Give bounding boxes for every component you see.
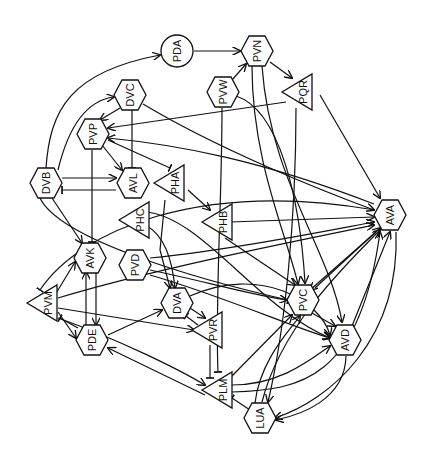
edge-dva-to-pvr (190, 308, 205, 318)
node-dvb: DVB (30, 168, 62, 198)
edge-dvb-to-avk (52, 198, 82, 243)
edge-pqr-to-lua (268, 108, 296, 402)
node-label: PLM (217, 379, 229, 402)
node-avk: AVK (74, 243, 106, 273)
node-pqr: PQR (282, 74, 312, 110)
edge-plm-to-pde (108, 348, 205, 395)
node-label: PQR (297, 80, 309, 104)
node-pha: PHA (154, 165, 184, 201)
node-plm: PLM (202, 372, 232, 408)
edge-ava-to-pvc (310, 232, 376, 290)
edge-pde-to-dva (108, 310, 162, 335)
edge-dvc-to-pvp (100, 108, 120, 120)
node-label: PVM (42, 291, 54, 315)
edge-phb-to-pvc (225, 238, 295, 285)
node-phb: PHB (202, 204, 232, 240)
neural-network-diagram: PDAPVNPVWPQRDVCPVPDVBAVLPHAPHCPHBAVAPVDA… (0, 0, 444, 461)
node-pvr: PVR (192, 312, 222, 348)
edge-plm-to-pvc (230, 315, 292, 378)
node-label: PDA (171, 39, 183, 62)
node-pvm: PVM (27, 285, 57, 321)
edge-avd-to-lua (276, 356, 346, 420)
edge-lua-to-plm (232, 398, 250, 410)
node-label: DVB (40, 172, 52, 195)
node-ava: AVA (374, 200, 406, 230)
node-pvp: PVP (77, 119, 109, 149)
node-label: AVD (339, 329, 351, 351)
node-dvc: DVC (114, 80, 146, 110)
node-pvd: PVD (119, 250, 151, 280)
node-avl: AVL (117, 168, 149, 198)
edge-pvc-to-avd (312, 313, 335, 326)
node-label: PHC (134, 208, 146, 231)
node-pvw: PVW (207, 77, 239, 107)
node-label: PVP (87, 123, 99, 145)
edge-pvp-to-avl (102, 145, 122, 170)
node-avd: AVD (329, 325, 361, 355)
node-pvn: PVN (241, 36, 273, 66)
node-label: PVC (297, 289, 309, 312)
node-dva: DVA (161, 288, 193, 318)
edge-pvm-to-avk (55, 262, 75, 295)
node-label: LUA (254, 407, 266, 429)
node-label: PVR (207, 319, 219, 342)
edge-pqr-to-ava (320, 95, 380, 198)
node-phc: PHC (119, 202, 149, 238)
edge-phb-to-ava (230, 217, 374, 222)
edge-pvd-to-ava (150, 222, 374, 258)
edge-pvn-to-pqr (270, 62, 292, 78)
node-label: AVL (127, 173, 139, 193)
edge-pvr-to-dva (186, 316, 198, 325)
node-label: AVK (84, 247, 96, 269)
node-label: PHB (217, 211, 229, 234)
node-label: AVA (384, 204, 396, 225)
node-label: DVA (171, 291, 183, 313)
node-lua: LUA (244, 403, 276, 433)
node-label: PVW (217, 79, 229, 105)
node-label: PVN (251, 40, 263, 63)
node-pde: PDE (76, 325, 108, 355)
node-label: PHA (169, 171, 181, 194)
node-label: PVD (129, 254, 141, 277)
edge-pvw-to-pvn (232, 64, 246, 80)
node-label: PDE (86, 329, 98, 352)
node-pda: PDA (161, 35, 193, 67)
node-label: DVC (124, 83, 136, 106)
